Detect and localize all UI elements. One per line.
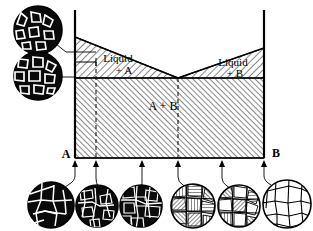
label-liquid-a-line1: Liquid	[103, 52, 133, 64]
micro-bottom-2	[76, 185, 118, 228]
marker-arrow-2	[93, 160, 99, 167]
micro-bottom-3	[120, 185, 162, 229]
region-a-plus-b	[75, 78, 264, 158]
composition-markers	[72, 160, 267, 167]
marker-arrow-1	[72, 160, 78, 167]
phase-diagram-figure: Liquid + A Liquid + B A + B A B	[0, 0, 313, 231]
micro-bottom-1	[28, 182, 74, 228]
micro-bottom-1-border	[28, 182, 74, 228]
axis-label-a: A	[62, 147, 71, 161]
micro-bottom-6	[262, 179, 313, 228]
micro-bottom-5	[217, 185, 260, 228]
micro-bottom-4	[170, 183, 216, 228]
marker-arrow-6	[261, 160, 267, 167]
diagram-canvas: Liquid + A Liquid + B A + B A B	[0, 0, 313, 231]
label-liquid-b-line2: + B	[227, 67, 243, 79]
micro-bottom-6-border	[263, 180, 311, 228]
label-liquid-a-line2: + A	[116, 64, 132, 76]
micro-top-1	[14, 6, 62, 54]
axis-label-b: B	[272, 146, 280, 160]
marker-arrow-4	[175, 160, 181, 167]
marker-arrow-5	[219, 160, 225, 167]
micro-top-2	[14, 52, 62, 100]
label-a-plus-b: A + B	[149, 99, 178, 113]
marker-arrow-3	[139, 160, 145, 167]
